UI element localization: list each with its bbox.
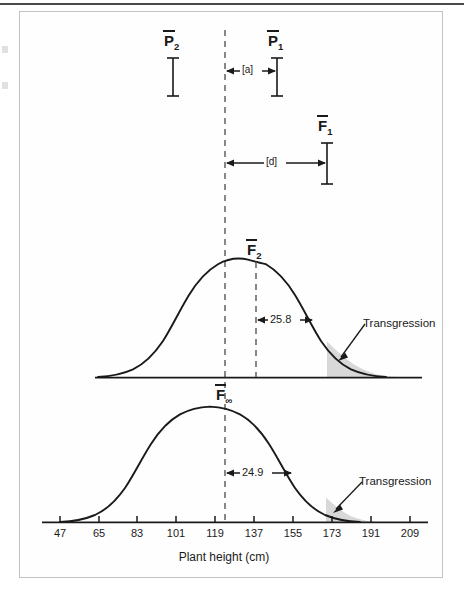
x-tick-label: 155 (284, 528, 302, 539)
annotation-d-bracket: [d] (266, 157, 277, 167)
p2-symbol: P (164, 33, 174, 48)
f1-subscript: 1 (327, 126, 332, 137)
annotation-a-bracket: [a] (242, 65, 253, 75)
marker-p1-bar (271, 58, 283, 96)
x-tick-label: 191 (362, 528, 380, 539)
x-tick-label: 47 (54, 528, 66, 539)
finf-transgression-label: Transgression (359, 476, 431, 488)
f2-transgression-arrow (338, 324, 365, 361)
f2-spread-value: 25.8 (270, 314, 291, 325)
f2-transgression-shading (327, 342, 408, 378)
finf-subscript: ∞ (225, 395, 232, 406)
finf-normal-curve (60, 407, 360, 522)
p1-symbol: P (268, 33, 278, 48)
marker-label-finf: F∞ (216, 387, 232, 406)
x-tick-label: 101 (167, 528, 185, 539)
finf-symbol: F (216, 387, 225, 402)
figure-page: P2 P1 [a] F1 [d] F2 25.8 Transgression F… (0, 0, 464, 592)
genetics-transgression-figure (0, 0, 464, 592)
f2-symbol: F (247, 242, 256, 257)
x-tick-label: 137 (245, 528, 263, 539)
f1-symbol: F (318, 118, 327, 133)
x-tick-label: 65 (93, 528, 105, 539)
x-tick-label: 173 (323, 528, 341, 539)
p2-subscript: 2 (174, 41, 179, 52)
x-axis-title: Plant height (cm) (179, 551, 270, 563)
marker-p2-bar (167, 58, 179, 96)
marker-label-f1: F1 (318, 118, 332, 137)
marker-label-p1: P1 (268, 33, 283, 52)
finf-transgression-arrow (333, 482, 362, 513)
x-tick-label: 209 (401, 528, 419, 539)
x-tick-label: 119 (206, 528, 224, 539)
f2-subscript: 2 (256, 250, 261, 261)
marker-label-f2: F2 (247, 242, 261, 261)
marker-label-p2: P2 (164, 33, 179, 52)
p1-subscript: 1 (278, 41, 283, 52)
finf-spread-value: 24.9 (242, 467, 263, 478)
f2-transgression-label: Transgression (363, 318, 435, 330)
x-tick-label: 83 (131, 528, 143, 539)
